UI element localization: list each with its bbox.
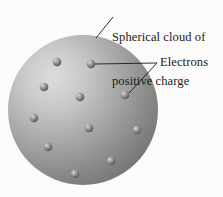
label-electrons: Electrons <box>160 55 208 70</box>
electron-particle <box>53 58 62 67</box>
electron-particle <box>44 143 53 152</box>
electron-particle <box>85 124 94 133</box>
label-spherical-cloud-line2: positive charge <box>112 74 205 89</box>
atom-diagram-figure: Spherical cloud of positive charge Elect… <box>0 0 223 197</box>
electron-particle <box>133 126 142 135</box>
electron-particle <box>30 114 39 123</box>
electron-particle <box>107 157 116 166</box>
electron-particle <box>71 170 80 179</box>
label-spherical-cloud-line1: Spherical cloud of <box>112 30 205 45</box>
electron-particle <box>76 93 85 102</box>
electron-particle <box>40 83 49 92</box>
leader-line-cloud <box>96 17 113 38</box>
electron-particle <box>87 60 96 69</box>
